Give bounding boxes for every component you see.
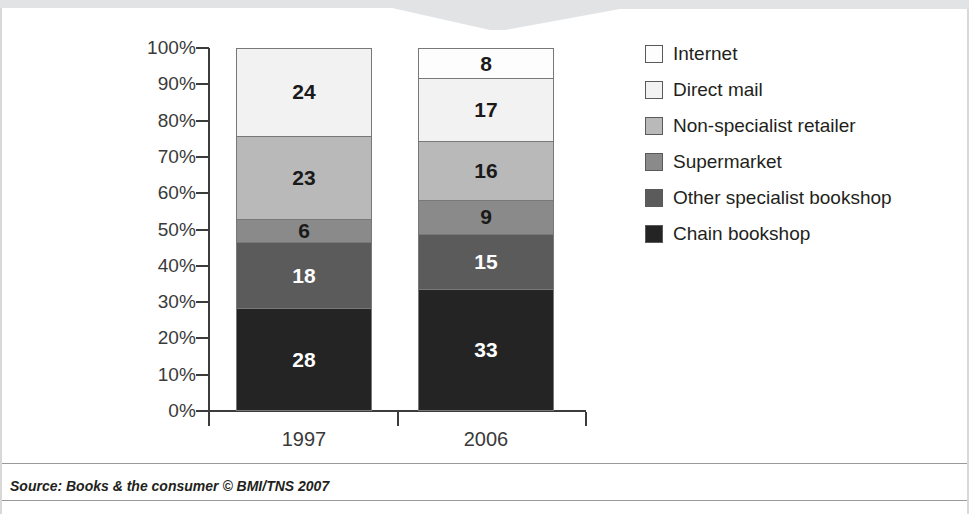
- x-axis-label-1997: 1997: [214, 428, 394, 451]
- legend-swatch-icon: [645, 45, 663, 63]
- legend-item-other-specialist-bookshop[interactable]: Other specialist bookshop: [645, 180, 955, 216]
- bar-segment-chain-bookshop-2006[interactable]: 33: [418, 289, 554, 411]
- y-tick-mark-60: [196, 192, 209, 194]
- y-axis-tick-30: 30%: [158, 291, 196, 313]
- y-axis-tick-60: 60%: [158, 182, 196, 204]
- bar-segment-supermarket-2006[interactable]: 9: [418, 200, 554, 234]
- bar-segment-value: 6: [298, 219, 310, 242]
- bar-segment-non-specialist-retailer-1997[interactable]: 23: [236, 136, 372, 220]
- legend-item-supermarket[interactable]: Supermarket: [645, 144, 955, 180]
- y-tick-mark-30: [196, 301, 209, 303]
- source-divider-bottom: [2, 500, 967, 501]
- bar-segment-value: 18: [292, 264, 315, 288]
- plot-area: 0%10%20%30%40%50%60%70%80%90%100% 242361…: [128, 36, 598, 448]
- bar-segment-direct-mail-2006[interactable]: 17: [418, 78, 554, 141]
- y-tick-mark-80: [196, 120, 209, 122]
- legend-swatch-icon: [645, 225, 663, 243]
- bar-segment-other-specialist-bookshop-2006[interactable]: 15: [418, 234, 554, 289]
- y-axis-tick-80: 80%: [158, 110, 196, 132]
- legend-item-label: Supermarket: [673, 151, 782, 173]
- y-axis-tick-40: 40%: [158, 255, 196, 277]
- bar-segment-value: 24: [292, 80, 315, 104]
- y-axis-tick-10: 10%: [158, 364, 196, 386]
- legend-swatch-icon: [645, 117, 663, 135]
- bar-segment-internet-2006[interactable]: 8: [418, 48, 554, 78]
- y-tick-mark-20: [196, 337, 209, 339]
- legend-item-direct-mail[interactable]: Direct mail: [645, 72, 955, 108]
- stacked-bar-2006[interactable]: 8171691533: [418, 48, 554, 411]
- legend-item-label: Chain bookshop: [673, 223, 810, 245]
- stacked-bar-1997[interactable]: 242361828: [236, 48, 372, 411]
- legend-swatch-icon: [645, 153, 663, 171]
- y-axis-tick-labels: 0%10%20%30%40%50%60%70%80%90%100%: [128, 36, 196, 411]
- bar-segment-value: 9: [480, 205, 492, 229]
- bar-segment-non-specialist-retailer-2006[interactable]: 16: [418, 141, 554, 200]
- legend-item-label: Other specialist bookshop: [673, 187, 892, 209]
- bar-segment-value: 15: [474, 250, 497, 274]
- bar-segment-other-specialist-bookshop-1997[interactable]: 18: [236, 242, 372, 308]
- bar-segment-supermarket-1997[interactable]: 6: [236, 219, 372, 242]
- x-tick-mark-1: [397, 412, 399, 426]
- bar-segment-direct-mail-1997[interactable]: 24: [236, 48, 372, 136]
- y-axis-tick-90: 90%: [158, 73, 196, 95]
- bar-segment-value: 23: [292, 166, 315, 190]
- y-tick-mark-100: [196, 47, 209, 49]
- y-axis-tick-70: 70%: [158, 146, 196, 168]
- legend-item-non-specialist-retailer[interactable]: Non-specialist retailer: [645, 108, 955, 144]
- bar-segment-value: 33: [474, 338, 497, 362]
- y-tick-mark-70: [196, 156, 209, 158]
- y-tick-mark-10: [196, 374, 209, 376]
- bar-segment-value: 17: [474, 98, 497, 122]
- source-attribution: Source: Books & the consumer © BMI/TNS 2…: [10, 478, 329, 494]
- x-tick-mark-0: [208, 412, 210, 426]
- y-axis-tick-100: 100%: [147, 37, 196, 59]
- source-divider-top: [2, 463, 967, 464]
- bar-segment-value: 8: [480, 52, 492, 76]
- bar-segment-value: 16: [474, 159, 497, 183]
- chart-legend: InternetDirect mailNon-specialist retail…: [645, 36, 955, 252]
- legend-item-chain-bookshop[interactable]: Chain bookshop: [645, 216, 955, 252]
- y-tick-mark-90: [196, 83, 209, 85]
- legend-item-label: Non-specialist retailer: [673, 115, 856, 137]
- legend-item-label: Internet: [673, 43, 737, 65]
- x-tick-mark-2: [585, 412, 587, 426]
- bar-segment-value: 28: [292, 348, 315, 372]
- y-axis-tick-50: 50%: [158, 219, 196, 241]
- legend-swatch-icon: [645, 81, 663, 99]
- legend-item-label: Direct mail: [673, 79, 763, 101]
- y-tick-mark-50: [196, 229, 209, 231]
- bar-segment-chain-bookshop-1997[interactable]: 28: [236, 308, 372, 411]
- y-axis-tick-0: 0%: [168, 400, 196, 422]
- y-axis-tick-20: 20%: [158, 327, 196, 349]
- legend-item-internet[interactable]: Internet: [645, 36, 955, 72]
- y-tick-mark-40: [196, 265, 209, 267]
- chart-figure: 0%10%20%30%40%50%60%70%80%90%100% 242361…: [0, 28, 969, 460]
- x-axis-label-2006: 2006: [396, 428, 576, 451]
- legend-swatch-icon: [645, 189, 663, 207]
